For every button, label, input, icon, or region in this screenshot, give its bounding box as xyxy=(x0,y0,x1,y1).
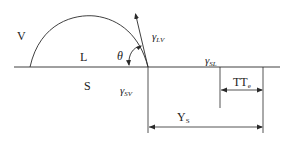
tte-sub: e xyxy=(248,82,251,90)
solid-label: S xyxy=(84,79,91,93)
ys-arrow-left-head xyxy=(149,125,155,130)
liquid-label: L xyxy=(80,50,87,64)
tte-label: TTe xyxy=(233,75,251,90)
liquid-vapor-tension-arrow xyxy=(136,14,149,67)
tte-arrow-left-head xyxy=(221,88,227,93)
gamma-sl-sub: SL xyxy=(209,60,217,68)
gamma-sv-sub: SV xyxy=(124,90,133,98)
ys-sub: S xyxy=(186,117,190,125)
ys-label: YS xyxy=(177,110,190,125)
gamma-lv-label: γLV xyxy=(152,30,165,44)
gamma-sv-label: γSV xyxy=(120,84,133,98)
vapor-label: V xyxy=(17,29,26,43)
gamma-lv-sub: LV xyxy=(155,36,165,44)
tte-base: TT xyxy=(233,75,248,89)
ys-base: Y xyxy=(177,110,186,124)
wetting-diagram: V L S θ γLV γSL γSV TTe YS xyxy=(0,0,289,141)
theta-label: θ xyxy=(117,49,123,63)
droplet-profile xyxy=(30,16,148,67)
gamma-sl-label: γSL xyxy=(205,54,217,68)
